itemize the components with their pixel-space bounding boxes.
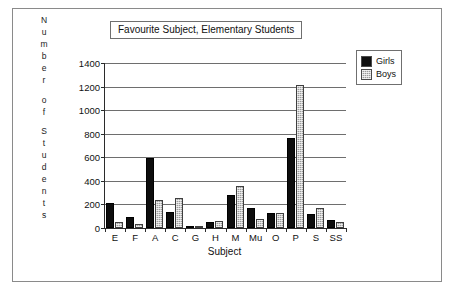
x-tick-mark [226,228,227,232]
bar-boys [296,85,304,228]
bar-series-container [105,63,346,228]
bar-boys [115,222,123,228]
legend-item-girls: Girls [361,55,396,67]
bar-girls [227,195,235,228]
x-tick-mark [145,228,146,232]
x-tick-label: E [112,232,118,243]
x-tick-label: G [192,232,199,243]
bar-group [326,63,346,228]
x-tick-label: C [172,232,179,243]
bar-boys [236,186,244,228]
bar-group [205,63,225,228]
bar-group [185,63,205,228]
x-tick-mark [125,228,126,232]
bar-girls [106,203,114,228]
x-tick-mark [205,228,206,232]
x-axis-title: Subject [104,246,345,257]
y-axis-title-letter: s [36,209,52,221]
y-tick-label: 400 [84,175,100,186]
bar-girls [247,208,255,228]
bar-boys [155,200,163,228]
y-axis-title-letter: u [36,26,52,38]
x-tick-label: SS [330,232,343,243]
x-tick-mark [165,228,166,232]
bar-girls [126,217,134,228]
y-tick-label: 0 [95,223,100,234]
bar-girls [146,158,154,228]
x-tick-mark [286,228,287,232]
bar-group [105,63,125,228]
bar-group [145,63,165,228]
bar-girls [287,138,295,228]
x-tick-mark [346,228,347,232]
y-axis-title-letter: o [36,94,52,106]
y-tick-label: 600 [84,152,100,163]
legend-label-girls: Girls [376,56,395,66]
x-tick-label: Mu [249,232,262,243]
bar-girls [206,222,214,228]
y-axis-title-letter: e [36,173,52,185]
legend-label-boys: Boys [376,69,396,79]
x-tick-mark [306,228,307,232]
chart-figure: NumberofStudents Favourite Subject, Elem… [0,0,455,293]
bar-boys [256,219,264,228]
bar-boys [195,226,203,228]
x-tick-label: O [272,232,279,243]
chart-legend: Girls Boys [356,50,402,85]
y-axis-title-letter: d [36,161,52,173]
bar-group [165,63,185,228]
x-tick-label: M [232,232,240,243]
y-axis-title-letter: t [36,197,52,209]
bar-boys [336,222,344,228]
bar-group [306,63,326,228]
bar-boys [175,198,183,228]
y-axis-title-letter: m [36,38,52,50]
legend-swatch-girls [361,56,372,67]
y-axis-title-letter: S [36,125,52,137]
y-axis-title-letter: N [36,14,52,26]
y-axis-title-letter: t [36,137,52,149]
bar-boys [215,221,223,228]
chart-title: Favourite Subject, Elementary Students [110,21,302,39]
x-tick-mark [266,228,267,232]
x-tick-mark [105,228,106,232]
bar-girls [267,213,275,228]
x-tick-label: S [313,232,319,243]
x-tick-mark [185,228,186,232]
bar-girls [186,226,194,228]
bar-group [266,63,286,228]
bar-boys [276,213,284,228]
x-tick-mark [246,228,247,232]
y-tick-label: 1000 [79,105,100,116]
y-tick-label: 1400 [79,58,100,69]
x-tick-mark [326,228,327,232]
x-tick-label: F [132,232,138,243]
bar-girls [307,214,315,228]
bar-group [226,63,246,228]
y-tick-label: 1200 [79,81,100,92]
y-axis-title-letter: n [36,185,52,197]
x-tick-label: A [152,232,158,243]
y-tick-label: 800 [84,128,100,139]
bar-group [125,63,145,228]
x-tick-label: P [293,232,299,243]
bar-girls [166,212,174,229]
y-axis-title-letter: u [36,149,52,161]
legend-item-boys: Boys [361,68,396,80]
bar-group [286,63,306,228]
bar-girls [327,220,335,228]
y-tick-label: 200 [84,199,100,210]
legend-swatch-boys [361,69,372,80]
bar-boys [135,224,143,228]
bar-group [246,63,266,228]
y-axis-title-letter: r [36,74,52,86]
y-axis-title-letter: f [36,106,52,118]
bar-boys [316,208,324,228]
y-axis-title: NumberofStudents [36,14,52,222]
plot-area: 0200400600800100012001400 EFACGHMMuOPSSS [104,63,346,229]
x-tick-label: H [212,232,219,243]
y-axis-title-letter: b [36,50,52,62]
y-axis-title-letter: e [36,62,52,74]
